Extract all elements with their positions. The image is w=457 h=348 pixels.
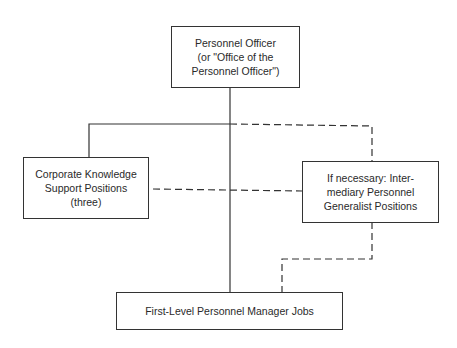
node-label: First-Level Personnel Manager Jobs: [145, 304, 314, 318]
node-label: Personnel Officer (or "Office of the Per…: [191, 36, 279, 78]
node-label: Corporate Knowledge Support Positions (t…: [35, 167, 137, 209]
node-intermediary: If necessary: Inter- mediary Personnel G…: [302, 161, 439, 223]
node-corporate-knowledge: Corporate Knowledge Support Positions (t…: [23, 157, 149, 219]
node-label: If necessary: Inter- mediary Personnel G…: [324, 171, 417, 213]
edge-intermediary-first-level: [282, 222, 372, 293]
edge-officer-intermediary: [230, 124, 372, 162]
node-personnel-officer: Personnel Officer (or "Office of the Per…: [171, 26, 300, 88]
edge-officer-corporate: [89, 124, 230, 158]
node-first-level: First-Level Personnel Manager Jobs: [116, 292, 343, 330]
edge-corporate-intermediary: [153, 189, 302, 191]
